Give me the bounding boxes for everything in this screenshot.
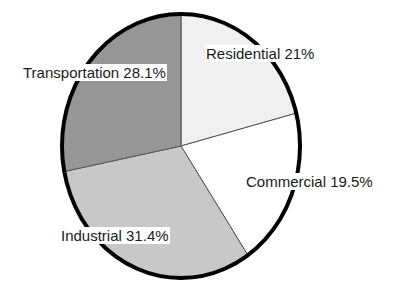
pie-chart-graphic: [0, 0, 397, 297]
pie-chart: Residential 21% Transportation 28.1% Com…: [0, 0, 397, 297]
pie-label-residential: Residential 21%: [205, 45, 315, 62]
pie-label-commercial: Commercial 19.5%: [245, 173, 374, 190]
pie-slice-transportation[interactable]: [62, 14, 181, 172]
pie-label-industrial: Industrial 31.4%: [60, 227, 170, 244]
pie-label-transportation: Transportation 28.1%: [22, 64, 167, 81]
